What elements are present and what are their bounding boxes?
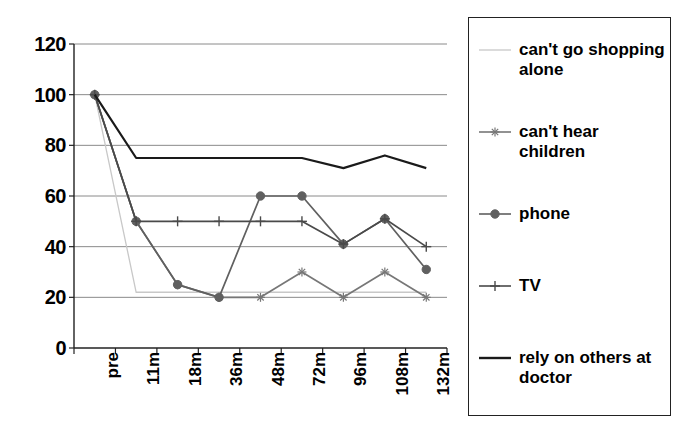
x-axis-tick-label: 108m xyxy=(393,352,413,395)
legend-entry[interactable]: rely on others at doctor xyxy=(477,348,669,387)
legend-star-marker-icon xyxy=(477,124,513,140)
x-axis-tick-label: 96m xyxy=(351,352,371,386)
x-axis-tick-label: 36m xyxy=(227,352,247,386)
legend-entry[interactable]: can't hear children xyxy=(477,122,669,161)
x-axis-tick-label: 11m xyxy=(144,352,164,385)
line-chart-figure: 120100806040200 pre11m18m36m48m72m96m108… xyxy=(0,0,460,433)
legend-label: rely on others at doctor xyxy=(519,348,669,387)
legend-none-marker-icon xyxy=(477,42,513,58)
data-point-star xyxy=(491,128,500,137)
x-axis-tick-label: 72m xyxy=(310,352,330,386)
legend-label: can't hear children xyxy=(519,122,669,161)
data-point-circle xyxy=(491,210,499,218)
legend-circle-marker-icon xyxy=(477,206,513,222)
legend-entry[interactable]: can't go shopping alone xyxy=(477,40,669,79)
legend-none-marker-icon xyxy=(477,350,513,366)
data-point-plus xyxy=(490,281,500,291)
legend-label: phone xyxy=(519,204,669,224)
legend-plus-marker-icon xyxy=(477,278,513,294)
chart-legend: can't go shopping alonecan't hear childr… xyxy=(468,17,671,416)
x-axis: pre11m18m36m48m72m96m108m132m xyxy=(0,0,460,433)
x-axis-tick-label: pre xyxy=(103,352,123,378)
legend-entry[interactable]: phone xyxy=(477,204,669,224)
x-axis-tick-label: 132m xyxy=(434,352,454,395)
x-axis-tick-label: 18m xyxy=(186,352,206,386)
x-axis-tick-label: 48m xyxy=(269,352,289,386)
legend-label: can't go shopping alone xyxy=(519,40,669,79)
legend-entry[interactable]: TV xyxy=(477,276,669,296)
legend-label: TV xyxy=(519,276,669,296)
